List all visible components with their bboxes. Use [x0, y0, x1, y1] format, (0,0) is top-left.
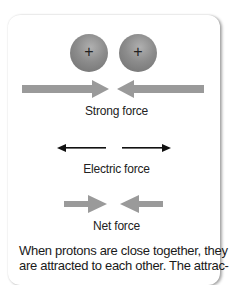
net-force-label: Net force [0, 219, 233, 233]
electric-force-arrow-right-icon [122, 144, 171, 152]
strong-force-label: Strong force [0, 104, 233, 118]
net-force-arrow-left-icon [120, 195, 163, 213]
figure-caption: When protons are close together, they ar… [19, 243, 229, 273]
strong-force-arrow-right-icon [22, 80, 109, 98]
electric-force-label: Electric force [0, 162, 233, 176]
electric-force-arrow-left-icon [57, 144, 106, 152]
strong-force-arrow-left-icon [117, 80, 204, 98]
net-force-arrow-right-icon [64, 195, 107, 213]
